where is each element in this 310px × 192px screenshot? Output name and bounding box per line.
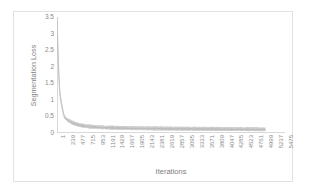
- y-tick-label: 0: [50, 130, 54, 137]
- y-tick-label: 1: [50, 97, 54, 104]
- x-tick-label: 3333: [199, 135, 205, 148]
- loss-curve: [57, 17, 285, 133]
- x-tick-label: 3809: [219, 135, 225, 148]
- segmentation-loss-chart: Segmentation Loss 3.532.521.510.50 12394…: [0, 0, 310, 192]
- x-tick-label: 1905: [139, 135, 145, 148]
- x-tick-label: 4285: [238, 135, 244, 148]
- x-tick-label: 3095: [189, 135, 195, 148]
- x-tick-label: 2143: [149, 135, 155, 148]
- x-tick-label: 715: [90, 135, 96, 145]
- x-tick-label: 4523: [248, 135, 254, 148]
- x-axis-tick-labels: 1239477715953119114291667190521432381261…: [57, 135, 285, 163]
- y-tick-label: 2.5: [45, 47, 54, 54]
- x-tick-label: 4047: [229, 135, 235, 148]
- y-tick-label: 1.5: [45, 80, 54, 87]
- loss-trend-line: [57, 20, 265, 130]
- y-axis-title-label: Segmentation Loss: [31, 44, 38, 106]
- y-tick-label: 3: [50, 30, 54, 37]
- y-tick-label: 0.5: [45, 113, 54, 120]
- x-tick-label: 4761: [258, 135, 264, 148]
- y-tick-label: 3.5: [45, 14, 54, 21]
- x-tick-label: 5475: [288, 135, 294, 148]
- x-axis-title: Iterations: [57, 167, 285, 176]
- x-tick-label: 2857: [179, 135, 185, 148]
- x-tick-label: 1191: [110, 135, 116, 148]
- x-tick-label: 5237: [278, 135, 284, 148]
- y-tick-label: 2: [50, 63, 54, 70]
- x-tick-label: 477: [80, 135, 86, 145]
- x-tick-label: 3571: [209, 135, 215, 148]
- plot-area: 3.532.521.510.50: [57, 17, 285, 133]
- x-tick-label: 1667: [129, 135, 135, 148]
- loss-noise-band: [57, 17, 265, 131]
- x-tick-label: 953: [100, 135, 106, 145]
- y-axis-title: Segmentation Loss: [28, 17, 40, 133]
- x-tick-label: 1: [60, 135, 66, 138]
- x-tick-label: 4999: [268, 135, 274, 148]
- x-tick-label: 2381: [159, 135, 165, 148]
- x-tick-label: 2619: [169, 135, 175, 148]
- x-tick-label: 1429: [119, 135, 125, 148]
- x-tick-label: 239: [70, 135, 76, 145]
